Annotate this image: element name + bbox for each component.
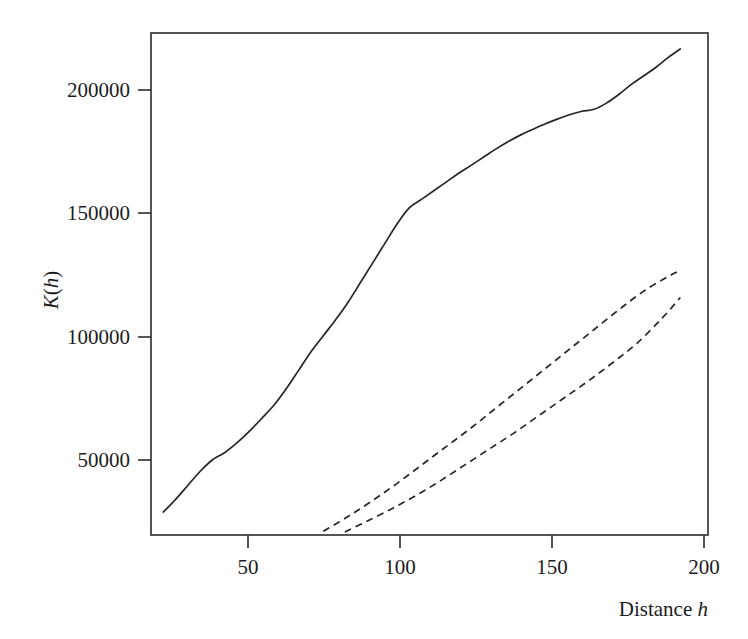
y-axis-ticks bbox=[138, 90, 151, 460]
y-tick-label-150000: 150000 bbox=[67, 201, 130, 225]
chart-figure: 50 100 150 200 50000 100000 150000 20000… bbox=[0, 0, 748, 639]
y-tick-label-200000: 200000 bbox=[67, 78, 130, 102]
y-axis-title: K(h) bbox=[39, 271, 63, 311]
y-axis-title-h: h bbox=[39, 278, 63, 289]
x-axis-title: Distance h bbox=[619, 597, 708, 621]
y-axis-tick-labels: 50000 100000 150000 200000 bbox=[67, 78, 130, 472]
x-axis-ticks bbox=[248, 535, 704, 548]
x-axis-tick-labels: 50 100 150 200 bbox=[238, 555, 720, 579]
ripley-k-function-plot: 50 100 150 200 50000 100000 150000 20000… bbox=[0, 0, 748, 639]
y-axis-title-paren-close: ) bbox=[39, 271, 63, 278]
series-dashed-upper-envelope bbox=[323, 270, 680, 531]
data-series-group bbox=[163, 49, 680, 532]
y-tick-label-100000: 100000 bbox=[67, 325, 130, 349]
x-tick-label-50: 50 bbox=[238, 555, 259, 579]
x-axis-title-h: h bbox=[698, 597, 709, 621]
x-tick-label-100: 100 bbox=[384, 555, 416, 579]
y-tick-label-50000: 50000 bbox=[78, 448, 131, 472]
x-axis-title-text: Distance bbox=[619, 597, 692, 621]
series-dashed-lower-envelope bbox=[345, 298, 680, 533]
series-solid-k-estimate bbox=[163, 49, 680, 512]
x-tick-label-200: 200 bbox=[688, 555, 720, 579]
y-axis-title-k: K bbox=[39, 294, 63, 310]
x-tick-label-150: 150 bbox=[536, 555, 568, 579]
y-axis-title-paren-open: ( bbox=[39, 288, 63, 295]
plot-frame bbox=[151, 33, 708, 535]
